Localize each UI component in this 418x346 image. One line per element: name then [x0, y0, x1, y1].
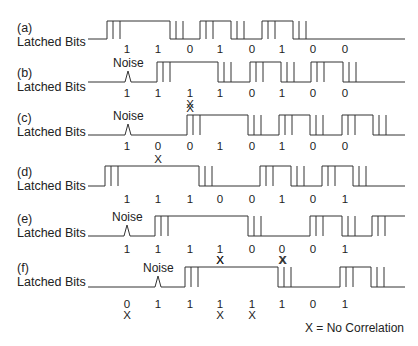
latched-bit: 1 — [120, 193, 134, 205]
row-label-a: (a)Latched Bits — [17, 21, 86, 49]
noise-spike — [125, 124, 128, 135]
noise-label: Noise — [113, 56, 144, 70]
latched-bit: 0 — [183, 140, 197, 152]
legend-no-correlation: X = No Correlation — [305, 321, 404, 335]
latched-bit: 0 — [183, 43, 197, 55]
latched-bit: 1 — [120, 140, 134, 152]
latched-bit: 1 — [183, 298, 197, 310]
row-caption: Latched Bits — [17, 275, 86, 289]
no-correlation-mark: X — [120, 309, 134, 321]
latched-bit: 1 — [338, 193, 352, 205]
latched-bit: 0 — [306, 243, 320, 255]
latched-bit: 1 — [213, 87, 227, 99]
latched-bit: 0 — [245, 140, 259, 152]
latched-bit: 0 — [306, 193, 320, 205]
row-caption: Latched Bits — [17, 35, 86, 49]
row-caption: Latched Bits — [17, 80, 86, 94]
latched-bit: 1 — [275, 140, 289, 152]
noise-label: Noise — [112, 210, 143, 224]
latched-bit: 0 — [245, 43, 259, 55]
row-label-b: (b)Latched Bits — [17, 66, 86, 94]
latched-bit: 1 — [151, 193, 165, 205]
latched-bit: 0 — [338, 43, 352, 55]
latched-bit: 1 — [183, 193, 197, 205]
latched-bit: 1 — [275, 193, 289, 205]
latched-bit: 1 — [338, 243, 352, 255]
latched-bit: 1 — [151, 87, 165, 99]
row-letter: (a) — [17, 21, 86, 35]
latched-bit: 1 — [213, 43, 227, 55]
row-letter: (e) — [17, 212, 86, 226]
latched-bit: 0 — [338, 140, 352, 152]
latched-bit: 1 — [151, 243, 165, 255]
latched-bit: 1 — [213, 140, 227, 152]
row-label-f: (f)Latched Bits — [17, 261, 86, 289]
row-letter: (f) — [17, 261, 86, 275]
latched-bit: 1 — [120, 87, 134, 99]
latched-bit: 1 — [151, 43, 165, 55]
latched-bit: 1 — [120, 243, 134, 255]
latched-bit: 1 — [183, 243, 197, 255]
row-caption: Latched Bits — [17, 179, 86, 193]
row-letter: (c) — [17, 111, 86, 125]
latched-bit: 0 — [245, 193, 259, 205]
latched-bit: 1 — [151, 298, 165, 310]
no-correlation-mark: X — [213, 309, 227, 321]
latched-bit: 1 — [120, 43, 134, 55]
latched-bit: 1 — [275, 87, 289, 99]
noise-spike — [155, 276, 158, 287]
noise-label: Noise — [143, 261, 174, 275]
latched-bit: 0 — [306, 43, 320, 55]
latched-bit: 0 — [338, 87, 352, 99]
no-correlation-mark: X — [213, 254, 227, 266]
latched-bit: 0 — [306, 140, 320, 152]
row-caption: Latched Bits — [17, 125, 86, 139]
row-letter: (b) — [17, 66, 86, 80]
no-correlation-mark: X — [151, 153, 165, 165]
latched-bit: 1 — [338, 298, 352, 310]
latched-bit: 1 — [275, 298, 289, 310]
latched-bit: 0 — [151, 140, 165, 152]
no-correlation-mark: X — [276, 254, 290, 266]
row-letter: (d) — [17, 165, 86, 179]
noise-spike — [124, 225, 127, 236]
latched-bit: 0 — [213, 193, 227, 205]
row-label-d: (d)Latched Bits — [17, 165, 86, 193]
latched-bit: 0 — [245, 87, 259, 99]
row-label-e: (e)Latched Bits — [17, 212, 86, 240]
latched-bit: 0 — [245, 243, 259, 255]
noise-label: Noise — [113, 109, 144, 123]
latched-bit: 0 — [306, 87, 320, 99]
row-label-c: (c)Latched Bits — [17, 111, 86, 139]
no-correlation-mark: X — [183, 102, 197, 114]
latched-bit: 0 — [306, 298, 320, 310]
noise-spike — [125, 71, 128, 82]
no-correlation-mark: X — [245, 309, 259, 321]
row-caption: Latched Bits — [17, 226, 86, 240]
latched-bit: 1 — [275, 43, 289, 55]
